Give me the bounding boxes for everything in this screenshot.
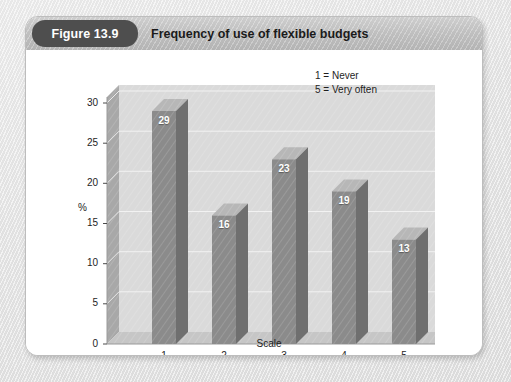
legend-line-1: 1 = Never — [315, 69, 377, 83]
legend-line-2: 5 = Very often — [315, 83, 377, 97]
xtick-label-1: 1 — [152, 350, 176, 356]
legend: 1 = Never 5 = Very often — [315, 69, 377, 97]
y-axis-title: % — [78, 202, 87, 213]
left-side-wall — [107, 85, 119, 344]
bar-category-3 — [272, 147, 308, 344]
y-axis-ticks — [103, 103, 107, 344]
bar-value-3: 23 — [272, 163, 296, 174]
figure-title: Frequency of use of flexible budgets — [151, 17, 368, 50]
bar-chart-3d: 30 25 20 15 10 5 0 % 1 2 3 4 5 Scale 29 … — [26, 50, 482, 355]
bar-value-4: 19 — [332, 195, 356, 206]
chart-svg — [26, 50, 482, 355]
bar-category-1 — [152, 99, 188, 344]
xtick-label-4: 4 — [332, 350, 356, 356]
xtick-label-2: 2 — [212, 350, 236, 356]
ytick-label-15: 15 — [74, 217, 98, 228]
ytick-label-30: 30 — [74, 97, 98, 108]
ytick-label-25: 25 — [74, 137, 98, 148]
x-axis-title: Scale — [26, 338, 482, 349]
xtick-label-5: 5 — [392, 350, 416, 356]
xtick-label-3: 3 — [272, 350, 296, 356]
figure-card: Figure 13.9 Frequency of use of flexible… — [25, 16, 483, 356]
ytick-label-20: 20 — [74, 177, 98, 188]
chart-area: 30 25 20 15 10 5 0 % 1 2 3 4 5 Scale 29 … — [26, 50, 482, 355]
bar-value-2: 16 — [212, 219, 236, 230]
figure-number-badge: Figure 13.9 — [32, 20, 138, 47]
ytick-label-10: 10 — [74, 257, 98, 268]
bar-value-1: 29 — [152, 115, 176, 126]
ytick-label-5: 5 — [74, 297, 98, 308]
bar-value-5: 13 — [392, 243, 416, 254]
